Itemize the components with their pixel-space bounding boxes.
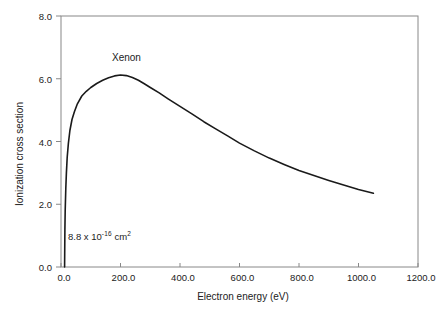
annotation-unit-exponent: 2 <box>127 230 131 237</box>
ionization-cross-section-figure: Ionization cross section Electron energy… <box>0 0 448 318</box>
x-tick-label: 400.0 <box>171 272 195 283</box>
y-tick-label: 8.0 <box>39 11 52 22</box>
x-tick-label: 800.0 <box>290 272 314 283</box>
x-tick-label: 1200.0 <box>406 272 435 283</box>
y-tick-label: 2.0 <box>39 199 52 210</box>
x-tick-label: 0.0 <box>57 272 70 283</box>
y-tick-label: 0.0 <box>39 262 52 273</box>
x-tick-label: 200.0 <box>112 272 136 283</box>
plot-canvas <box>0 0 448 318</box>
x-axis-title: Electron energy (eV) <box>197 291 289 302</box>
x-tick-label: 1000.0 <box>347 272 376 283</box>
annotation-exponent: -16 <box>102 230 112 237</box>
annotation-unit: cm <box>112 231 127 242</box>
y-tick-label: 6.0 <box>39 73 52 84</box>
y-axis-title: Ionization cross section <box>14 102 25 206</box>
cross-section-annotation: 8.8 x 10-16 cm2 <box>68 230 131 242</box>
y-tick-label: 4.0 <box>39 136 52 147</box>
annotation-base: 8.8 x 10 <box>68 231 102 242</box>
x-tick-label: 600.0 <box>231 272 255 283</box>
series-label-xenon: Xenon <box>112 52 141 63</box>
